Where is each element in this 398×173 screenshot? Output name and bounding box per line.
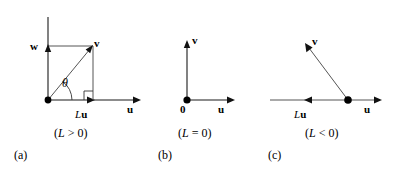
panel-b-graphic [183, 40, 235, 104]
panel-a-caption: (L > 0) [54, 123, 87, 141]
panel-b-label-u: u [218, 103, 224, 115]
panel-c-origin-dot [344, 96, 352, 104]
panel-c-u-arrowhead [374, 97, 382, 104]
panel-a-label-theta: θ [62, 76, 68, 91]
panel-a-letter: (a) [14, 148, 27, 163]
panel-a-origin-dot [45, 97, 52, 104]
panel-c-lu-arrowhead [304, 97, 312, 104]
panel-b-label-v: v [192, 34, 198, 46]
panel-a-label-lu: Lu [75, 104, 87, 122]
panel-c-graphic [270, 43, 382, 104]
panel-c-caption-scalar: L [309, 126, 316, 140]
panel-b-v-arrowhead [184, 40, 190, 48]
panel-b-u-arrowhead [227, 97, 235, 104]
panel-c-letter: (c) [268, 148, 281, 163]
panel-a-caption-relation: > 0) [65, 126, 88, 140]
panel-a-label-w: w [30, 40, 38, 52]
panel-a-u-arrowhead [133, 97, 141, 104]
panel-a-w-arrowhead [45, 44, 51, 52]
panel-b-caption-scalar: L [182, 126, 189, 140]
panel-a-label-u: u [127, 103, 133, 115]
panel-c-label-u: u [364, 103, 370, 115]
panel-c-lu-vector: u [300, 108, 306, 120]
panel-b-letter: (b) [158, 148, 172, 163]
vector-projection-figure: w v u Lu θ (L > 0) (a) v u 0 (L = 0) (b)… [0, 0, 398, 173]
panel-c-caption: (L < 0) [305, 123, 338, 141]
panel-b-caption-relation: = 0) [189, 126, 212, 140]
panel-c-caption-relation: < 0) [316, 126, 339, 140]
figure-canvas [0, 0, 398, 173]
panel-b-caption: (L = 0) [178, 123, 211, 141]
panel-a-graphic [45, 17, 141, 103]
panel-c-label-lu: Lu [294, 104, 306, 122]
panel-c-label-v: v [312, 35, 318, 47]
panel-a-caption-scalar: L [58, 126, 65, 140]
panel-a-lu-vector: u [81, 108, 87, 120]
panel-b-label-origin: 0 [180, 103, 186, 115]
panel-a-label-v: v [94, 37, 100, 49]
panel-c-v-vector [309, 48, 348, 100]
panel-a-lu-arrowhead [87, 97, 95, 104]
